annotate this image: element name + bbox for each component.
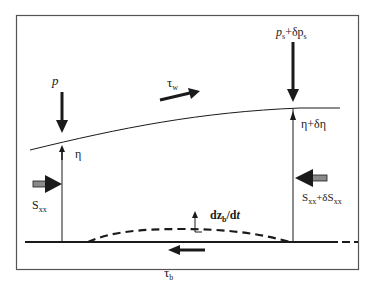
radiation-stress-arrow-left: [33, 175, 62, 193]
frame-border: [17, 16, 359, 270]
radiation-stress-arrow-right: [295, 169, 327, 187]
wind-stress-arrow: [160, 88, 200, 100]
label-tau-w: τw: [167, 76, 178, 92]
diagram-canvas: [0, 0, 373, 302]
label-ps-plus-dps: ps+δps: [276, 26, 307, 41]
eta-arrow-left: [59, 145, 65, 160]
pressure-arrow-left: [56, 92, 68, 133]
eta-arrow-right: [290, 111, 296, 120]
label-p: p: [52, 74, 59, 87]
label-sxx: Sxx: [32, 199, 47, 214]
label-dzb-dt: dzb/dt: [210, 209, 240, 224]
label-tau-b: τb: [164, 266, 173, 282]
label-sxx-plus-dsxx: Sxx+δSxx: [302, 192, 342, 206]
label-eta: η: [75, 148, 81, 160]
bed-change-profile: [88, 229, 290, 242]
label-eta-plus-deta: η+δη: [301, 118, 326, 130]
bed-stress-arrow: [168, 245, 205, 255]
pressure-arrow-right: [287, 42, 299, 102]
